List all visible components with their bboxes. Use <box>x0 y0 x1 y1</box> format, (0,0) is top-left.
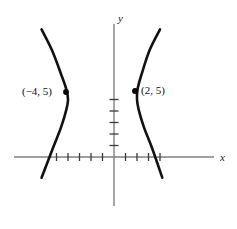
left-vertex-label: (−4, 5) <box>22 85 52 98</box>
right-vertex-point <box>132 88 138 94</box>
axis-group <box>14 24 214 206</box>
marked-points <box>63 88 138 95</box>
graph-figure: . . . . . . (−4, 5) (2, 5) y x <box>0 0 237 229</box>
right-branch-curve <box>137 29 162 177</box>
x-axis-label: x <box>219 151 225 163</box>
left-vertex-point <box>63 89 69 95</box>
y-axis-label: y <box>117 12 123 24</box>
coordinate-plane: (−4, 5) (2, 5) y x <box>0 0 237 229</box>
right-vertex-label: (2, 5) <box>141 84 165 97</box>
left-branch-curve <box>42 29 68 177</box>
